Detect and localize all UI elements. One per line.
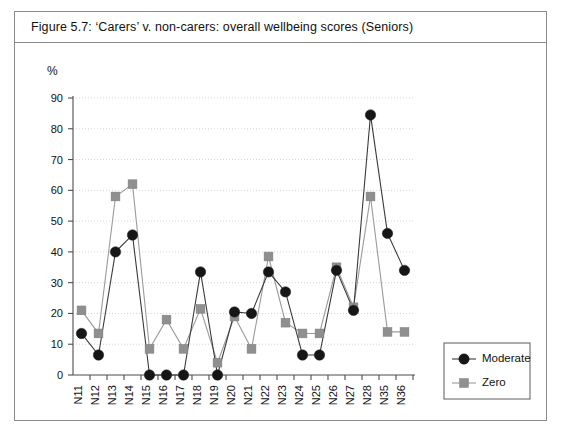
figure-caption-bar: Figure 5.7: ‘Carers’ v. non-carers: over…	[15, 12, 546, 43]
series-group	[76, 110, 409, 380]
data-point-zero-N21	[247, 344, 256, 353]
data-point-moderate-N21	[246, 308, 256, 318]
x-axis-tick-label: N19	[208, 385, 220, 405]
y-axis-tick-label: 50	[51, 215, 63, 227]
y-axis-tick-label: 40	[51, 246, 63, 258]
y-axis-tick-label: 70	[51, 154, 63, 166]
data-point-moderate-N24	[297, 350, 307, 360]
x-axis-tick-label: N15	[140, 385, 152, 405]
data-point-moderate-N17	[178, 370, 188, 380]
series-line-moderate	[82, 115, 405, 375]
data-point-moderate-N13	[110, 247, 120, 257]
axes-group	[73, 96, 415, 375]
data-point-zero-N22	[264, 252, 273, 261]
y-axis-tick-label: 10	[51, 338, 63, 350]
data-point-zero-N25	[315, 329, 324, 338]
x-axis-tick-label: N36	[395, 385, 407, 405]
legend-label-moderate: Moderate	[482, 352, 531, 364]
x-axis-tick-label: N27	[344, 385, 356, 405]
data-point-moderate-N15	[144, 370, 154, 380]
data-point-moderate-N12	[93, 350, 103, 360]
data-point-zero-N23	[281, 318, 290, 327]
legend-label-zero: Zero	[482, 376, 506, 388]
series-line-zero	[82, 184, 405, 363]
x-axis-tick-label: N14	[123, 385, 135, 405]
data-point-zero-N16	[162, 315, 171, 324]
data-point-moderate-N16	[161, 370, 171, 380]
figure-caption: Figure 5.7: ‘Carers’ v. non-carers: over…	[15, 20, 413, 34]
data-point-zero-N15	[145, 344, 154, 353]
data-point-zero-N19	[213, 358, 222, 367]
x-axis-ticks-group: N11N12N13N14N15N16N17N18N19N20N21N22N23N…	[72, 375, 414, 405]
y-axis-tick-label: 30	[51, 277, 63, 289]
wellbeing-line-chart: 0102030405060708090 N11N12N13N14N15N16N1…	[15, 43, 546, 420]
data-point-moderate-N19	[212, 370, 222, 380]
data-point-zero-N11	[77, 306, 86, 315]
y-axis-tick-label: 0	[57, 369, 63, 381]
data-point-zero-N18	[196, 304, 205, 313]
x-axis-tick-label: N18	[191, 385, 203, 405]
data-point-zero-N28	[366, 192, 375, 201]
x-axis-tick-label: N11	[72, 385, 84, 404]
x-axis-tick-label: N12	[89, 385, 101, 405]
data-point-moderate-N26	[331, 265, 341, 275]
data-point-zero-N24	[298, 329, 307, 338]
data-point-moderate-N11	[76, 328, 86, 338]
legend-marker-zero	[460, 379, 469, 388]
chart-legend: ModerateZero	[444, 343, 531, 399]
y-axis-unit-label: %	[47, 64, 58, 78]
data-point-moderate-N18	[195, 267, 205, 277]
y-axis-tick-label: 80	[51, 123, 63, 135]
data-point-moderate-N36	[399, 265, 409, 275]
data-point-zero-N17	[179, 344, 188, 353]
x-axis-tick-label: N24	[293, 385, 305, 405]
data-point-zero-N12	[94, 329, 103, 338]
chart-plot-area: 0102030405060708090 N11N12N13N14N15N16N1…	[15, 43, 546, 420]
data-point-moderate-N35	[382, 228, 392, 238]
x-axis-tick-label: N17	[174, 385, 186, 405]
data-point-moderate-N22	[263, 267, 273, 277]
data-point-moderate-N25	[314, 350, 324, 360]
data-point-moderate-N20	[229, 307, 239, 317]
y-axis-tick-label: 90	[51, 92, 63, 104]
y-axis-tick-label: 60	[51, 184, 63, 196]
x-axis-tick-label: N21	[242, 385, 254, 405]
data-point-moderate-N14	[127, 230, 137, 240]
data-point-zero-N13	[111, 192, 120, 201]
x-axis-tick-label: N20	[225, 385, 237, 405]
data-point-moderate-N27	[348, 305, 358, 315]
data-point-moderate-N23	[280, 287, 290, 297]
x-axis-tick-label: N16	[157, 385, 169, 405]
x-axis-tick-label: N26	[327, 385, 339, 405]
data-point-zero-N36	[400, 328, 409, 337]
data-point-zero-N14	[128, 180, 137, 189]
x-axis-tick-label: N13	[106, 385, 118, 405]
gridlines-group	[73, 98, 415, 344]
x-axis-tick-label: N35	[378, 385, 390, 405]
y-axis-tick-label: 20	[51, 307, 63, 319]
x-axis-tick-label: N23	[276, 385, 288, 405]
figure-frame: Figure 5.7: ‘Carers’ v. non-carers: over…	[14, 11, 547, 421]
x-axis-tick-label: N22	[259, 385, 271, 405]
data-point-zero-N35	[383, 328, 392, 337]
x-axis-tick-label: N25	[310, 385, 322, 405]
y-axis-ticks-group: 0102030405060708090	[51, 92, 73, 381]
data-point-moderate-N28	[365, 110, 375, 120]
x-axis-tick-label: N28	[361, 385, 373, 405]
legend-marker-moderate	[459, 354, 469, 364]
